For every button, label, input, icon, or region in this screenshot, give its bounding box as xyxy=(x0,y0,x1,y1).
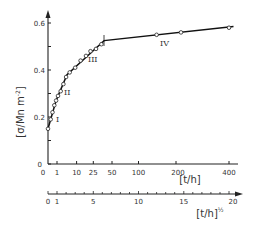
y-axis: 0 0.2 0.4 0.6 xyxy=(34,10,51,169)
data-points xyxy=(46,26,231,131)
fit-lines xyxy=(48,27,234,129)
x2-tick-label: 15 xyxy=(179,198,188,206)
x-tick-label: 400 xyxy=(222,169,235,177)
x-tick-label: 0 xyxy=(41,169,45,177)
y-axis-arrow-icon xyxy=(46,10,51,18)
y-tick-label: 0.2 xyxy=(34,114,45,122)
x-tick-label: 25 xyxy=(89,169,98,177)
x-axis-title: [t/h] xyxy=(179,174,201,185)
x2-tick-label: 5 xyxy=(91,198,95,206)
region-label-III: III xyxy=(88,55,97,64)
chart: 0 0.2 0.4 0.6 [σ/Mn m-2] 0 1 10 25 50 10… xyxy=(0,0,254,232)
y-tick-label: 0.6 xyxy=(34,20,46,28)
y-tick-label: 0 xyxy=(38,161,42,169)
x-axis-sqrt-time: 0 1 5 10 15 20 [t/h]½ xyxy=(46,191,243,219)
x-tick-label: 50 xyxy=(108,169,117,177)
region-label-IV: IV xyxy=(160,39,169,48)
x2-tick-label: 0 xyxy=(46,198,50,206)
x2-axis-title: [t/h]½ xyxy=(196,206,223,219)
region-label-II: II xyxy=(64,88,70,97)
y-tick-label: 0.4 xyxy=(34,67,46,75)
x-tick-label: 10 xyxy=(72,169,81,177)
x-axis-arrow-icon xyxy=(235,192,243,197)
x2-tick-label: 1 xyxy=(55,198,59,206)
x-axis-time: 0 1 10 25 50 100 200 400 [t/h] xyxy=(41,161,238,185)
x2-tick-label: 10 xyxy=(134,198,143,206)
region-label-I: I xyxy=(56,115,59,124)
svg-text:[σ/Mn m-2]: [σ/Mn m-2] xyxy=(14,86,26,137)
x2-tick-label: 20 xyxy=(229,198,238,206)
y-axis-title: [σ/Mn m-2] xyxy=(14,86,26,137)
x-tick-label: 1 xyxy=(55,169,59,177)
x-tick-label: 100 xyxy=(132,169,145,177)
